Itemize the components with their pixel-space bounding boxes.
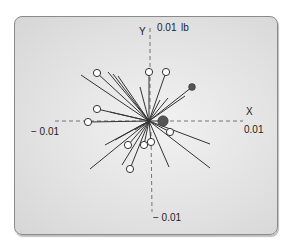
vector-markers (84, 68, 195, 172)
resultant-marker (158, 116, 168, 126)
filled-circle-marker (189, 84, 196, 91)
open-circle-marker (166, 128, 173, 135)
open-circle-marker (93, 69, 100, 76)
vector-line (149, 87, 192, 121)
y-pos-tick-label: 0.01 (157, 22, 176, 33)
vector-line (81, 75, 149, 121)
vector-line (97, 73, 149, 121)
unit-label: lb (181, 22, 189, 33)
x-axis-label: X (246, 106, 253, 117)
open-circle-marker (126, 165, 133, 172)
open-circle-marker (147, 138, 154, 145)
open-circle-marker (140, 141, 147, 148)
vector-line (149, 121, 210, 168)
y-neg-tick-label: − 0.01 (153, 212, 181, 223)
open-circle-marker (162, 68, 169, 75)
open-circle-marker (145, 68, 152, 75)
vector-line (149, 100, 160, 121)
open-circle-marker (93, 105, 100, 112)
x-neg-tick-label: − 0.01 (31, 126, 59, 137)
vector-line (118, 76, 149, 121)
vector-line (149, 121, 210, 144)
y-axis-label: Y (139, 26, 146, 37)
open-circle-marker (124, 141, 131, 148)
open-circle-marker (84, 118, 91, 125)
x-pos-tick-label: 0.01 (244, 124, 263, 135)
